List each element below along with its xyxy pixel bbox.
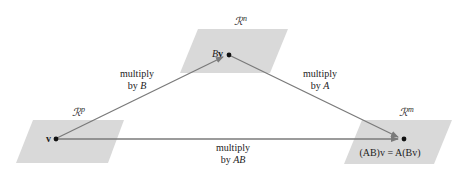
space-label-rn: ℛn — [234, 14, 247, 27]
label-multiply-b-line2: by B — [128, 80, 147, 91]
point-v — [54, 137, 59, 142]
plane-rp — [16, 120, 124, 163]
label-v: v — [46, 133, 51, 144]
label-multiply-a-line2: by A — [311, 80, 331, 91]
label-bv: Bv — [212, 48, 223, 59]
space-label-rm: ℛm — [399, 105, 414, 118]
label-multiply-ab-line2: by AB — [221, 154, 246, 165]
label-multiply-b-line1: multiply — [120, 68, 154, 79]
label-result: (AB)v = A(Bv) — [359, 147, 420, 159]
plane-rn — [180, 29, 288, 73]
point-bv — [227, 53, 232, 58]
matrix-composition-diagram: ℛp ℛn ℛm v Bv (AB)v = A(Bv) multiply by … — [0, 0, 473, 175]
space-label-rp: ℛp — [72, 105, 85, 118]
point-result — [402, 137, 407, 142]
label-multiply-ab-line1: multiply — [216, 142, 250, 153]
label-multiply-a-line1: multiply — [303, 68, 337, 79]
